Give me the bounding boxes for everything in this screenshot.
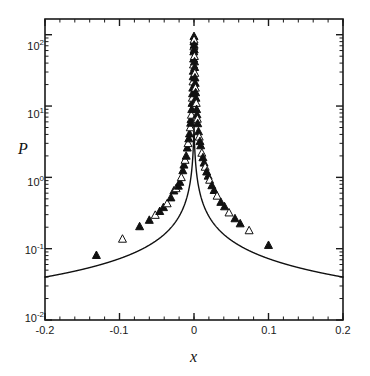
data-marker xyxy=(118,235,126,242)
ytick-label-0: 102 xyxy=(6,40,44,52)
data-markers xyxy=(92,32,272,258)
data-marker xyxy=(167,193,175,200)
ytick-label-2: 100 xyxy=(6,176,44,188)
figure-container: 102 101 100 10-1 10-2 -0.2 -0.1 0 0.1 0.… xyxy=(0,0,370,376)
y-axis-title: P xyxy=(18,140,28,158)
data-marker xyxy=(265,241,273,248)
ytick-label-4: 10-2 xyxy=(6,312,44,324)
data-marker xyxy=(177,173,185,180)
xtick-label-1: -0.1 xyxy=(99,324,139,336)
data-marker xyxy=(245,226,253,233)
x-axis-title: x xyxy=(190,348,197,366)
data-marker xyxy=(182,152,190,159)
xtick-label-4: 0.2 xyxy=(323,324,363,336)
plot-canvas xyxy=(0,0,370,376)
xtick-label-3: 0.1 xyxy=(249,324,289,336)
xtick-label-2: 0 xyxy=(174,324,214,336)
xtick-label-0: -0.2 xyxy=(25,324,65,336)
fit-curve xyxy=(45,123,343,277)
ytick-label-1: 101 xyxy=(6,108,44,120)
data-marker xyxy=(136,222,144,229)
data-marker xyxy=(92,251,100,258)
ytick-label-3: 10-1 xyxy=(6,244,44,256)
